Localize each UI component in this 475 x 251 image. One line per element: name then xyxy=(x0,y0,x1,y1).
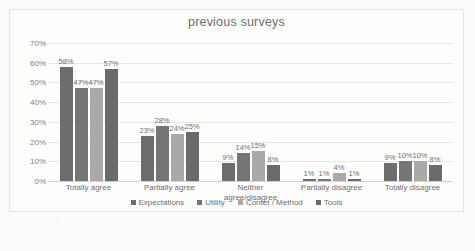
bar-value-label: 15% xyxy=(250,141,265,150)
bar-value-label: 1% xyxy=(319,169,330,178)
bar-slot: 58% xyxy=(60,43,73,181)
bar-slot: 1% xyxy=(318,43,331,181)
bar-value-label: 47% xyxy=(88,78,103,87)
bar[interactable] xyxy=(318,179,331,181)
y-axis-tick-label: 40% xyxy=(30,98,46,107)
bar-value-label: 57% xyxy=(103,59,118,68)
legend-label: Contet / Method xyxy=(246,198,303,207)
y-axis-labels: 70%60%50%40%30%20%10%0% xyxy=(16,43,46,181)
bar-value-label: 47% xyxy=(73,78,88,87)
bar-value-label: 1% xyxy=(349,169,360,178)
bar-value-label: 28% xyxy=(154,116,169,125)
y-axis-tick-label: 10% xyxy=(30,157,46,166)
bar-slot: 4% xyxy=(333,43,346,181)
bar[interactable] xyxy=(237,153,250,181)
bar-value-label: 25% xyxy=(184,122,199,131)
bar[interactable] xyxy=(141,136,154,181)
y-axis-tick-label: 60% xyxy=(30,58,46,67)
bar[interactable] xyxy=(429,165,442,181)
bar-slot: 15% xyxy=(252,43,265,181)
axis-line-zero xyxy=(48,181,453,182)
bar-slot: 23% xyxy=(141,43,154,181)
legend-item[interactable]: Utility xyxy=(197,198,225,207)
bar-value-label: 14% xyxy=(235,143,250,152)
x-axis-label-line: Totally agree xyxy=(48,183,129,193)
chart-title: previous surveys xyxy=(10,15,463,29)
bar[interactable] xyxy=(303,179,316,181)
x-axis-label-line: Neither xyxy=(210,183,291,193)
bar-slot: 25% xyxy=(186,43,199,181)
y-axis-tick-label: 50% xyxy=(30,78,46,87)
bar-slot: 10% xyxy=(414,43,427,181)
bar[interactable] xyxy=(171,134,184,181)
bar-slot: 47% xyxy=(90,43,103,181)
y-axis-tick-label: 70% xyxy=(30,39,46,48)
bar-slot: 57% xyxy=(105,43,118,181)
x-axis-label-line: Partially disagree xyxy=(291,183,372,193)
bar[interactable] xyxy=(75,88,88,181)
bar[interactable] xyxy=(333,173,346,181)
y-axis-tick-label: 30% xyxy=(30,117,46,126)
bar-slot: 8% xyxy=(267,43,280,181)
bar-value-label: 1% xyxy=(304,169,315,178)
plot-area: 58%47%47%57%23%28%24%25%9%14%15%8%1%1%4%… xyxy=(48,43,453,181)
bar[interactable] xyxy=(222,163,235,181)
chart-container: previous surveys 70%60%50%40%30%20%10%0%… xyxy=(9,9,464,212)
bar-value-label: 9% xyxy=(385,153,396,162)
bar-slot: 1% xyxy=(348,43,361,181)
chart-legend: ExpectationsUtilityContet / MethodTools xyxy=(10,198,463,207)
y-axis-tick-label: 0% xyxy=(34,177,46,186)
bar-group: 9%14%15%8% xyxy=(210,43,291,181)
legend-item[interactable]: Contet / Method xyxy=(238,198,303,207)
bar[interactable] xyxy=(348,179,361,181)
bar-value-label: 8% xyxy=(268,155,279,164)
bar-slot: 1% xyxy=(303,43,316,181)
bar[interactable] xyxy=(105,69,118,181)
bar[interactable] xyxy=(399,161,412,181)
bar-value-label: 58% xyxy=(58,57,73,66)
bar-slot: 9% xyxy=(384,43,397,181)
legend-swatch-icon xyxy=(238,200,243,205)
bar-value-label: 10% xyxy=(412,151,427,160)
legend-swatch-icon xyxy=(197,200,202,205)
x-axis-label-line: Partially agree xyxy=(129,183,210,193)
legend-label: Tools xyxy=(324,198,343,207)
bar-groups: 58%47%47%57%23%28%24%25%9%14%15%8%1%1%4%… xyxy=(48,43,453,181)
bar-slot: 47% xyxy=(75,43,88,181)
bar-group: 23%28%24%25% xyxy=(129,43,210,181)
bar-slot: 28% xyxy=(156,43,169,181)
bar[interactable] xyxy=(156,126,169,181)
bar-slot: 24% xyxy=(171,43,184,181)
bar[interactable] xyxy=(90,88,103,181)
y-axis-tick-label: 20% xyxy=(30,137,46,146)
bar[interactable] xyxy=(60,67,73,181)
bar-slot: 8% xyxy=(429,43,442,181)
legend-swatch-icon xyxy=(131,200,136,205)
bar-slot: 10% xyxy=(399,43,412,181)
bar-value-label: 10% xyxy=(397,151,412,160)
bar-group: 9%10%10%8% xyxy=(372,43,453,181)
legend-item[interactable]: Expectations xyxy=(131,198,185,207)
bar[interactable] xyxy=(414,161,427,181)
bar[interactable] xyxy=(252,151,265,181)
legend-label: Expectations xyxy=(139,198,185,207)
legend-swatch-icon xyxy=(316,200,321,205)
legend-item[interactable]: Tools xyxy=(316,198,343,207)
bar-value-label: 4% xyxy=(334,163,345,172)
bar[interactable] xyxy=(186,132,199,181)
bar[interactable] xyxy=(267,165,280,181)
bar-value-label: 23% xyxy=(139,126,154,135)
bar-slot: 14% xyxy=(237,43,250,181)
bar[interactable] xyxy=(384,163,397,181)
legend-label: Utility xyxy=(205,198,225,207)
bar-slot: 9% xyxy=(222,43,235,181)
bar-value-label: 9% xyxy=(223,153,234,162)
bar-value-label: 24% xyxy=(169,124,184,133)
x-axis-label-line: Totally disagree xyxy=(372,183,453,193)
bar-group: 1%1%4%1% xyxy=(291,43,372,181)
bar-value-label: 8% xyxy=(430,155,441,164)
bar-group: 58%47%47%57% xyxy=(48,43,129,181)
